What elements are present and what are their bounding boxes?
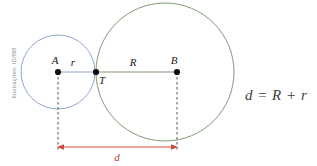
point-a-label: A: [51, 54, 59, 66]
tangent-circles-drawing: A T B r R d d = R + r: [0, 0, 317, 166]
point-a-dot: [55, 69, 61, 75]
formula-label: d = R + r: [245, 87, 307, 103]
point-b-dot: [174, 69, 180, 75]
geometry-figure: Ilustrações: ID/BR A T B r R d d = R + r: [0, 0, 317, 166]
dimension-label-d: d: [114, 151, 120, 163]
segment-R-label: R: [129, 56, 137, 68]
point-t-label: T: [99, 74, 106, 86]
point-b-label: B: [171, 54, 178, 66]
segment-r-label: r: [71, 56, 76, 68]
